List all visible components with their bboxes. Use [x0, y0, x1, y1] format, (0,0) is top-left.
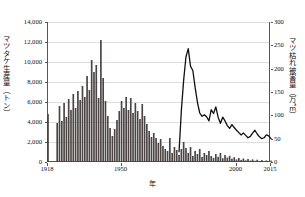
- y-tick-label-left: 12,000: [12, 38, 42, 45]
- y-tick-label-right: 50: [274, 135, 304, 142]
- y-axis-title-left: マツタケ生産量（トン）: [2, 34, 9, 154]
- tickmark: [271, 115, 273, 116]
- tickmark: [271, 162, 273, 163]
- y-tick-label-left: 2,000: [12, 138, 42, 145]
- y-tick-label-right: 200: [274, 65, 304, 72]
- y-tick-label-right: 250: [274, 41, 304, 48]
- line-path: [179, 49, 271, 152]
- tickmark: [121, 163, 122, 166]
- tickmark: [45, 82, 47, 83]
- x-tick-label: 2015: [250, 165, 290, 172]
- tickmark: [45, 142, 47, 143]
- tickmark: [271, 139, 273, 140]
- plot-area: [47, 22, 270, 162]
- y-tick-label-left: 0: [12, 158, 42, 165]
- tickmark: [236, 163, 237, 166]
- tickmark: [45, 122, 47, 123]
- tickmark: [270, 163, 271, 166]
- line-series-pine-wilt-damage: [48, 22, 271, 162]
- tickmark: [47, 163, 48, 166]
- y-tick-label-right: 150: [274, 88, 304, 95]
- tickmark: [45, 22, 47, 23]
- y-tick-label-left: 14,000: [12, 18, 42, 25]
- y-tick-label-right: 100: [274, 111, 304, 118]
- x-axis-title: 年: [0, 178, 305, 188]
- tickmark: [45, 102, 47, 103]
- tickmark: [271, 92, 273, 93]
- x-tick-label: 1918: [27, 165, 67, 172]
- tickmark: [271, 45, 273, 46]
- y-tick-label-left: 6,000: [12, 98, 42, 105]
- tickmark: [45, 42, 47, 43]
- matsutake-production-chart: マツタケ生産量（トン） マツ枯れ被害量（万㎥） 年 02,0004,0006,0…: [0, 0, 305, 197]
- y-tick-label-right: 0: [274, 158, 304, 165]
- x-tick-label: 1950: [101, 165, 141, 172]
- y-tick-label-left: 10,000: [12, 58, 42, 65]
- tickmark: [271, 22, 273, 23]
- y-tick-label-left: 8,000: [12, 78, 42, 85]
- y-tick-label-left: 4,000: [12, 118, 42, 125]
- y-tick-label-right: 300: [274, 18, 304, 25]
- tickmark: [271, 69, 273, 70]
- tickmark: [45, 62, 47, 63]
